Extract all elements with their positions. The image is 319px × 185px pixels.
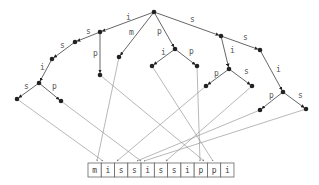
- string-char: p: [198, 166, 203, 175]
- edge-label: s: [298, 91, 303, 100]
- leaf-pointer: [100, 75, 204, 161]
- leaf-pointer: [17, 99, 103, 161]
- tree-node: [173, 47, 178, 52]
- edge-label: s: [190, 15, 195, 24]
- tree-node: [98, 73, 103, 78]
- tree-node: [258, 48, 263, 53]
- edge-label: i: [161, 48, 166, 57]
- edge-label: p: [52, 82, 57, 91]
- edge-label: p: [93, 49, 98, 58]
- tree-edge: [221, 36, 258, 49]
- tree-node: [304, 107, 309, 112]
- string-char: s: [172, 166, 177, 175]
- edge-label: p: [157, 27, 162, 36]
- tree-node: [227, 67, 232, 72]
- edge-label: s: [244, 67, 249, 76]
- tree-node: [258, 108, 263, 113]
- edge-label: s: [24, 82, 29, 91]
- tree-node: [150, 64, 155, 69]
- edge-label: i: [230, 46, 235, 55]
- tree-node: [15, 97, 20, 102]
- edge-label: p: [189, 47, 194, 56]
- tree-edges: issisppmpipssipsips: [19, 12, 304, 108]
- tree-node: [98, 30, 103, 35]
- leaf-pointer: [144, 109, 306, 161]
- tree-edge: [19, 83, 39, 98]
- leaf-pointer: [117, 86, 206, 161]
- string-char: i: [145, 166, 150, 175]
- tree-edge: [221, 36, 228, 67]
- string-char: s: [159, 166, 164, 175]
- edge-label: i: [126, 13, 131, 22]
- tree-node: [73, 40, 78, 45]
- edge-label: s: [60, 41, 65, 50]
- edge-label: i: [276, 65, 281, 74]
- edge-label: s: [86, 27, 91, 36]
- edge-label: i: [40, 63, 45, 72]
- edge-label: p: [269, 91, 274, 100]
- string-char: i: [225, 166, 230, 175]
- tree-edge: [154, 12, 219, 35]
- string-char: p: [212, 166, 217, 175]
- leaf-pointer: [197, 66, 200, 161]
- tree-node: [152, 10, 157, 15]
- tree-node: [117, 55, 122, 60]
- tree-node: [195, 64, 200, 69]
- edge-label: p: [214, 69, 219, 78]
- string-char: m: [92, 166, 97, 175]
- edge-label: m: [129, 28, 134, 37]
- tree-node: [204, 84, 209, 89]
- leaf-pointer: [166, 86, 252, 161]
- tree-node: [37, 81, 42, 86]
- leaf-pointers: [17, 57, 306, 161]
- leaf-pointer: [97, 57, 119, 161]
- string-char: s: [119, 166, 124, 175]
- tree-node: [281, 90, 286, 95]
- tree-node: [219, 34, 224, 39]
- suffix-tree-diagram: issisppmpipssipsips mississippi: [0, 0, 319, 185]
- tree-node: [50, 57, 55, 62]
- tree-node: [59, 99, 64, 104]
- leaf-pointer: [61, 101, 141, 161]
- string-char: i: [185, 166, 190, 175]
- string-box: mississippi: [88, 163, 234, 177]
- edge-label: s: [243, 33, 248, 42]
- string-char: s: [132, 166, 137, 175]
- string-char: i: [105, 166, 110, 175]
- tree-node: [250, 84, 255, 89]
